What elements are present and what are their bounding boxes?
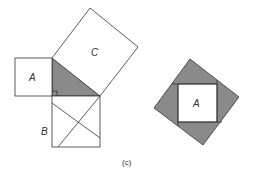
square-b bbox=[52, 96, 100, 147]
figure-caption: (c) bbox=[122, 158, 132, 167]
square-a-label: A bbox=[28, 72, 36, 83]
square-b-label: B bbox=[41, 126, 48, 137]
inner-square-a-label: A bbox=[192, 98, 200, 109]
square-c-label: C bbox=[91, 47, 99, 58]
pythagorean-diagram: A C B A (c) bbox=[0, 0, 256, 170]
